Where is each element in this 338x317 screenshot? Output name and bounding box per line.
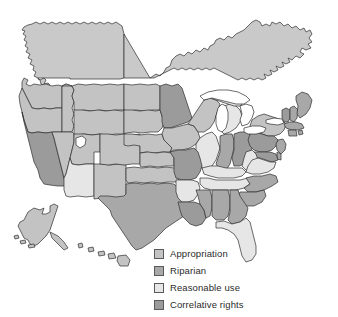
legend-label-reasonable-use: Reasonable use <box>170 280 240 296</box>
canada-region <box>22 22 124 88</box>
hawaii-island-4 <box>108 253 116 259</box>
legend-swatch-reasonable-use <box>154 283 164 293</box>
state-connecticut[interactable] <box>288 130 297 136</box>
state-vermont[interactable] <box>282 108 290 122</box>
state-rhode-island[interactable] <box>298 130 303 135</box>
hawaii-island-2 <box>88 247 94 252</box>
legend-swatch-correlative-rights <box>154 300 164 310</box>
legend-item-riparian[interactable]: Riparian <box>154 263 334 279</box>
canada-landmass <box>22 20 312 88</box>
alaska-aleutian-1 <box>14 235 19 239</box>
hawaii-island-big[interactable] <box>117 255 130 266</box>
inset-alaska <box>14 204 68 250</box>
state-new-jersey[interactable] <box>276 139 286 154</box>
state-maine[interactable] <box>296 92 312 118</box>
state-south-dakota[interactable] <box>124 110 164 134</box>
inset-hawaii <box>78 243 130 266</box>
state-massachusetts[interactable] <box>284 122 304 130</box>
state-group-northern-plains <box>62 84 164 135</box>
state-kansas[interactable] <box>140 152 174 167</box>
state-alabama[interactable] <box>212 190 230 220</box>
state-idaho[interactable] <box>62 84 74 132</box>
state-missouri[interactable] <box>170 148 202 180</box>
legend-swatch-riparian <box>154 266 164 276</box>
state-wyoming[interactable] <box>74 110 124 135</box>
state-new-mexico[interactable] <box>94 164 126 199</box>
legend-label-riparian: Riparian <box>170 263 206 279</box>
alaska-aleutian-2 <box>20 240 26 244</box>
alaska-aleutian-3 <box>28 244 35 248</box>
state-kentucky[interactable] <box>202 166 246 178</box>
canada-region-east <box>124 20 312 80</box>
legend-item-correlative-rights[interactable]: Correlative rights <box>154 297 334 313</box>
legend-label-appropriation: Appropriation <box>170 246 228 262</box>
legend-item-reasonable-use[interactable]: Reasonable use <box>154 280 334 296</box>
state-minnesota[interactable] <box>160 84 192 128</box>
us-water-rights-map-figure: Appropriation Riparian Reasonable use Co… <box>0 0 338 317</box>
hawaii-island-1 <box>78 243 83 248</box>
lake-ontario <box>266 118 284 125</box>
alaska-panhandle <box>50 232 68 250</box>
state-north-dakota[interactable] <box>124 84 160 111</box>
state-north-carolina[interactable] <box>244 174 278 192</box>
hawaii-island-3 <box>98 251 105 256</box>
state-tennessee[interactable] <box>200 178 250 190</box>
legend-item-appropriation[interactable]: Appropriation <box>154 246 334 262</box>
legend-swatch-appropriation <box>154 249 164 259</box>
map-legend: Appropriation Riparian Reasonable use Co… <box>154 246 334 314</box>
lake-michigan <box>216 104 228 132</box>
state-oklahoma[interactable] <box>126 167 180 183</box>
legend-label-correlative-rights: Correlative rights <box>170 297 244 313</box>
state-alaska[interactable] <box>18 204 58 246</box>
